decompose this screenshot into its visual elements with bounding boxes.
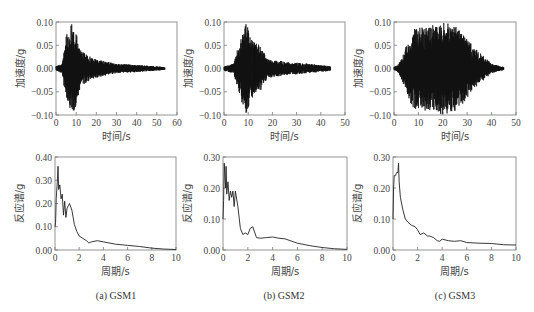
response-spectrum-1: 02468100.400.300.200.100.00周期/s反应谱/g — [13, 153, 181, 278]
y-tick-label: 0.00 — [35, 246, 52, 256]
figure: 01020304050600.100.050.00−0.05−0.10时间/s加… — [0, 0, 534, 312]
y-tick-label: 0.30 — [373, 153, 390, 163]
x-tick-label: 50 — [511, 118, 521, 128]
x-tick-label: 30 — [462, 118, 472, 128]
y-tick-label: −0.10 — [31, 111, 53, 121]
y-axis-label: 加速度/g — [14, 49, 26, 89]
y-tick-label: 0.05 — [374, 41, 391, 51]
y-tick-label: 0.05 — [204, 41, 221, 51]
x-tick-label: 0 — [221, 253, 226, 263]
y-tick-label: −0.10 — [199, 111, 221, 121]
y-tick-label: 0.00 — [373, 246, 390, 256]
y-axis-label: 加速度/g — [352, 49, 364, 89]
x-axis-label: 周期/s — [271, 266, 300, 277]
accel-trace — [224, 24, 330, 113]
x-tick-label: 6 — [295, 253, 300, 263]
x-tick-label: 2 — [245, 253, 250, 263]
x-tick-label: 8 — [320, 253, 325, 263]
y-tick-label: 0.10 — [203, 215, 220, 225]
y-tick-label: 0.30 — [35, 176, 52, 186]
y-tick-label: 0.00 — [374, 64, 391, 74]
spectrum-curve — [393, 163, 516, 245]
x-tick-label: 0 — [222, 118, 227, 128]
y-axis-label: 反应谱/g — [13, 184, 25, 224]
y-tick-label: 0.10 — [204, 18, 221, 28]
x-tick-label: 50 — [152, 118, 162, 128]
y-tick-label: 0.10 — [374, 18, 391, 28]
x-tick-label: 2 — [415, 253, 420, 263]
x-tick-label: 2 — [77, 253, 82, 263]
x-tick-label: 6 — [125, 253, 130, 263]
y-axis-label: 反应谱/g — [351, 184, 363, 224]
y-tick-label: 0.00 — [203, 246, 220, 256]
x-tick-label: 10 — [71, 118, 81, 128]
plot-frame — [223, 157, 347, 250]
x-tick-label: 20 — [438, 118, 448, 128]
x-tick-label: 40 — [132, 118, 142, 128]
y-tick-label: −0.05 — [369, 87, 391, 97]
y-tick-label: 0.20 — [203, 184, 220, 194]
x-axis-label: 时间/s — [102, 130, 131, 142]
y-axis-label: 反应谱/g — [181, 184, 193, 224]
caption-a: (a) GSM1 — [96, 290, 136, 302]
response-spectrum-3: 02468100.300.200.100.00周期/s反应谱/g — [351, 153, 521, 278]
y-tick-label: 0.00 — [204, 64, 221, 74]
x-tick-label: 50 — [340, 118, 350, 128]
spectrum-curve — [223, 163, 347, 249]
x-tick-label: 10 — [342, 253, 352, 263]
x-tick-label: 30 — [292, 118, 302, 128]
x-tick-label: 0 — [53, 253, 58, 263]
response-spectrum-2: 02468100.300.200.100.00周期/s反应谱/g — [181, 153, 352, 278]
y-axis-label: 加速度/g — [182, 49, 194, 89]
caption-c: (c) GSM3 — [435, 290, 475, 302]
x-tick-label: 60 — [172, 118, 182, 128]
x-tick-label: 20 — [92, 118, 102, 128]
x-axis-label: 时间/s — [270, 130, 299, 142]
spectrum-curve — [55, 166, 176, 249]
y-tick-label: 0.20 — [373, 184, 390, 194]
caption-b: (b) GSM2 — [264, 290, 305, 302]
x-tick-label: 4 — [270, 253, 275, 263]
y-tick-label: −0.10 — [369, 111, 391, 121]
accel-time-history-2: 010203040500.100.050.00−0.05−0.10时间/s加速度… — [182, 18, 350, 143]
x-tick-label: 0 — [392, 118, 397, 128]
x-tick-label: 6 — [464, 253, 469, 263]
x-tick-label: 4 — [440, 253, 445, 263]
x-tick-label: 20 — [268, 118, 278, 128]
y-tick-label: 0.10 — [35, 222, 52, 232]
accel-trace — [394, 23, 504, 114]
x-axis-label: 时间/s — [441, 130, 470, 142]
x-tick-label: 10 — [171, 253, 181, 263]
x-tick-label: 30 — [112, 118, 122, 128]
x-axis-label: 周期/s — [101, 266, 130, 277]
x-axis-label: 周期/s — [440, 266, 469, 277]
accel-time-history-1: 01020304050600.100.050.00−0.05−0.10时间/s加… — [14, 18, 182, 143]
y-tick-label: 0.20 — [35, 199, 52, 209]
x-tick-label: 0 — [54, 118, 59, 128]
accel-time-history-3: 010203040500.100.050.00−0.05−0.10时间/s加速度… — [352, 18, 521, 143]
y-tick-label: 0.00 — [36, 64, 53, 74]
y-tick-label: 0.40 — [35, 153, 52, 163]
x-tick-label: 40 — [316, 118, 326, 128]
accel-trace — [56, 24, 165, 110]
y-tick-label: 0.30 — [203, 153, 220, 163]
x-tick-label: 8 — [149, 253, 154, 263]
x-tick-label: 0 — [391, 253, 396, 263]
plot-frame — [55, 157, 176, 250]
x-tick-label: 8 — [489, 253, 494, 263]
x-tick-label: 10 — [243, 118, 253, 128]
plot-frame — [393, 157, 516, 250]
y-tick-label: 0.10 — [36, 18, 53, 28]
x-tick-label: 10 — [511, 253, 521, 263]
x-tick-label: 4 — [101, 253, 106, 263]
y-tick-label: −0.05 — [31, 87, 53, 97]
x-tick-label: 40 — [487, 118, 497, 128]
y-tick-label: 0.10 — [373, 215, 390, 225]
y-tick-label: 0.05 — [36, 41, 53, 51]
y-tick-label: −0.05 — [199, 87, 221, 97]
x-tick-label: 10 — [414, 118, 424, 128]
